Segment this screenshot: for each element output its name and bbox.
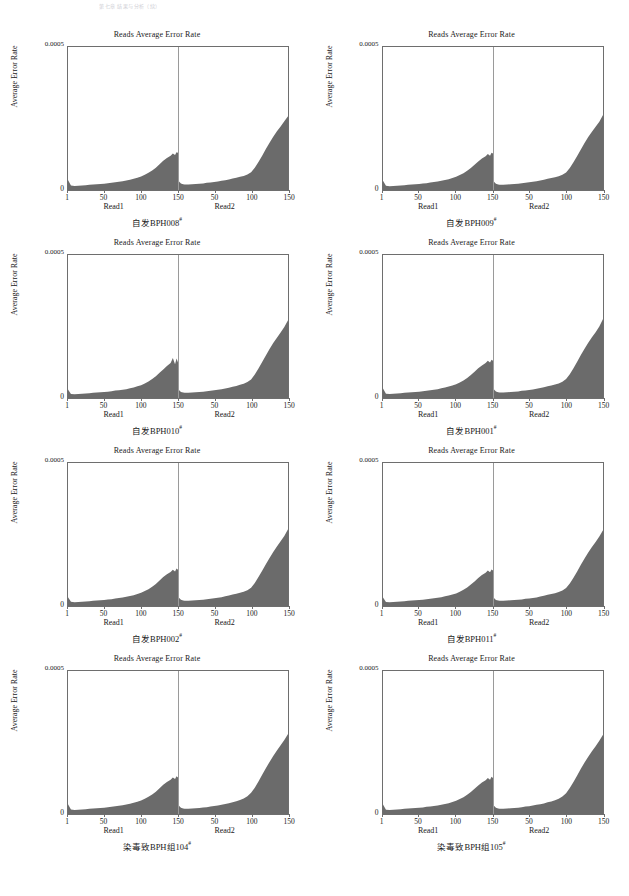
read2-group-label: Read2	[529, 826, 549, 835]
x-tick-label-read2-50: 50	[211, 817, 219, 826]
chart-panel-bph008: Reads Average Error Rate0.00050Average E…	[0, 26, 314, 234]
panel-caption: 自发BPH002#	[0, 632, 314, 644]
x-tick-label-read1-100: 100	[450, 609, 461, 618]
panel-caption: 自发BPH011#	[315, 632, 629, 644]
x-tick-label-read1-150: 150	[172, 401, 183, 410]
y-axis-zero-tick: 0	[359, 600, 379, 609]
read-boundary-divider	[493, 255, 494, 398]
read-boundary-divider	[493, 463, 494, 606]
y-axis-max-tick: 0.0005	[16, 664, 64, 672]
chart-panel-bph002: Reads Average Error Rate0.00050Average E…	[0, 442, 314, 650]
y-axis-zero-tick: 0	[44, 392, 64, 401]
panel-caption-superscript: #	[179, 216, 182, 222]
panel-caption: 自发BPH008#	[0, 216, 314, 228]
x-tick-label-read1-1: 1	[380, 609, 384, 618]
x-axis-ticks: 15010015050100150	[67, 814, 289, 826]
x-tick-label-read2-150: 150	[598, 401, 609, 410]
plot-area	[67, 462, 289, 606]
panel-title: Reads Average Error Rate	[0, 446, 314, 455]
read1-group-label: Read1	[418, 826, 438, 835]
panel-caption-text: 自发BPH011	[447, 634, 494, 644]
x-tick-label-read1-150: 150	[487, 193, 498, 202]
x-tick-label-read2-100: 100	[561, 817, 572, 826]
y-axis-max-tick: 0.0005	[331, 664, 379, 672]
panel-caption-superscript: #	[494, 216, 497, 222]
y-axis-zero-tick: 0	[44, 808, 64, 817]
x-axis-ticks: 15010015050100150	[382, 814, 604, 826]
x-tick-label-read2-50: 50	[525, 609, 533, 618]
y-axis-label: Average Error Rate	[324, 17, 333, 137]
x-tick-label-read2-100: 100	[561, 609, 572, 618]
plot-area	[67, 46, 289, 190]
x-tick-label-read2-100: 100	[246, 401, 257, 410]
page-header-text: 第七章 结果与分析（续）	[0, 2, 260, 9]
chart-panel-bph001: Reads Average Error Rate0.00050Average E…	[315, 234, 629, 442]
x-tick-label-read1-100: 100	[135, 817, 146, 826]
x-tick-label-read2-150: 150	[283, 817, 294, 826]
panel-caption-text: 自发BPH002	[132, 634, 179, 644]
panel-title: Reads Average Error Rate	[0, 238, 314, 247]
chart-panel-bph105: Reads Average Error Rate0.00050Average E…	[315, 650, 629, 858]
read1-group-label: Read1	[418, 410, 438, 419]
x-tick-label-read1-150: 150	[487, 609, 498, 618]
x-axis-ticks: 15010015050100150	[382, 606, 604, 618]
y-axis-label: Average Error Rate	[324, 433, 333, 553]
panel-caption: 染毒致BPH组105#	[315, 840, 629, 852]
y-axis-zero-tick: 0	[359, 808, 379, 817]
x-tick-label-read2-50: 50	[525, 817, 533, 826]
x-tick-label-read1-50: 50	[414, 817, 422, 826]
panel-caption: 自发BPH009#	[315, 216, 629, 228]
chart-panel-bph010: Reads Average Error Rate0.00050Average E…	[0, 234, 314, 442]
panel-caption: 自发BPH010#	[0, 424, 314, 436]
panel-caption-superscript: #	[179, 632, 182, 638]
panel-title: Reads Average Error Rate	[315, 654, 629, 663]
panel-caption-superscript: #	[503, 840, 506, 846]
x-tick-label-read1-150: 150	[487, 817, 498, 826]
x-tick-label-read1-50: 50	[414, 193, 422, 202]
read1-group-label: Read1	[103, 202, 123, 211]
x-axis-ticks: 15010015050100150	[67, 606, 289, 618]
read-boundary-divider	[493, 47, 494, 190]
x-tick-label-read1-50: 50	[414, 609, 422, 618]
x-tick-label-read1-50: 50	[414, 401, 422, 410]
read1-group-label: Read1	[418, 618, 438, 627]
y-axis-max-tick: 0.0005	[331, 456, 379, 464]
x-tick-label-read1-100: 100	[135, 193, 146, 202]
x-tick-label-read2-150: 150	[283, 193, 294, 202]
x-tick-label-read1-100: 100	[450, 817, 461, 826]
x-tick-label-read1-1: 1	[65, 609, 69, 618]
panel-caption-text: 自发BPH008	[132, 218, 179, 228]
panel-title: Reads Average Error Rate	[315, 446, 629, 455]
plot-area	[382, 462, 604, 606]
x-tick-label-read2-150: 150	[598, 193, 609, 202]
read-boundary-divider	[493, 671, 494, 814]
x-tick-label-read2-100: 100	[246, 193, 257, 202]
read2-group-label: Read2	[214, 410, 234, 419]
read2-group-label: Read2	[214, 826, 234, 835]
x-tick-label-read1-1: 1	[65, 401, 69, 410]
plot-area	[382, 46, 604, 190]
read1-group-label: Read1	[103, 826, 123, 835]
y-axis-max-tick: 0.0005	[16, 40, 64, 48]
x-tick-label-read1-1: 1	[380, 817, 384, 826]
panel-caption-text: 染毒致BPH组105	[437, 842, 502, 852]
x-tick-label-read1-150: 150	[172, 193, 183, 202]
read-boundary-divider	[178, 671, 179, 814]
panel-title: Reads Average Error Rate	[315, 238, 629, 247]
read2-group-label: Read2	[214, 202, 234, 211]
x-tick-label-read2-50: 50	[525, 193, 533, 202]
x-tick-label-read1-1: 1	[65, 817, 69, 826]
panel-title: Reads Average Error Rate	[0, 30, 314, 39]
x-tick-label-read2-100: 100	[561, 401, 572, 410]
x-axis-ticks: 15010015050100150	[382, 190, 604, 202]
read-boundary-divider	[178, 47, 179, 190]
read-boundary-divider	[178, 463, 179, 606]
y-axis-label: Average Error Rate	[10, 225, 19, 345]
x-tick-label-read1-100: 100	[135, 609, 146, 618]
plot-area	[67, 254, 289, 398]
panel-caption-superscript: #	[494, 424, 497, 430]
plot-area	[67, 670, 289, 814]
read2-group-label: Read2	[529, 410, 549, 419]
plot-area	[382, 254, 604, 398]
x-tick-label-read2-150: 150	[598, 609, 609, 618]
